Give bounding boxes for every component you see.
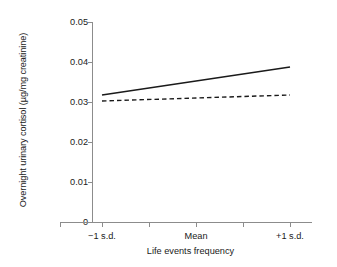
x-tick-label: +1 s.d. [276,231,304,242]
x-axis-tick-labels: −1 s.d. Mean +1 s.d. [0,0,337,267]
x-axis-title: Life events frequency [0,245,337,257]
x-tick-label: −1 s.d. [88,231,116,242]
chart-figure: Overnight urinary cortisol (µg/mg creati… [0,0,337,267]
x-tick-label: Mean [185,231,208,242]
